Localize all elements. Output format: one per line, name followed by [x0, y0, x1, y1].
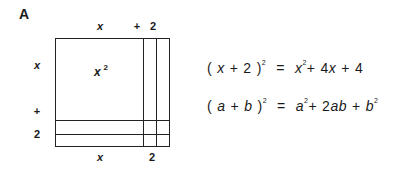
top-label-2: 2: [150, 21, 156, 32]
vertical-divider-2: [156, 38, 157, 147]
eq2-lhs-exp: 2: [263, 97, 267, 104]
eq2-plus2: +: [352, 98, 361, 114]
eq1-term2-coef: 4: [321, 60, 329, 76]
eq1-lhs-plus: +: [230, 60, 239, 76]
eq2-term3-exp: 2: [374, 97, 378, 104]
equation-1: (x+2)2=x2+4x+4: [207, 59, 363, 75]
horizontal-divider-1: [55, 120, 170, 121]
eq1-lhs-b: 2: [243, 60, 251, 76]
area-exp: 2: [104, 63, 108, 72]
eq2-lhs-b: b: [244, 98, 252, 114]
eq2-term1: a: [296, 98, 304, 114]
eq2-term2-var: ab: [330, 98, 347, 114]
eq2-lhs-plus: +: [230, 98, 239, 114]
eq1-equals: =: [276, 60, 285, 76]
left-label-plus: +: [34, 106, 40, 117]
eq2-open-paren: (: [207, 98, 212, 114]
eq2-plus1: +: [308, 98, 317, 114]
eq1-term2-var: x: [329, 60, 337, 76]
left-label-x: x: [34, 60, 40, 71]
panel-label: A: [19, 6, 29, 22]
eq2-term3: b: [366, 98, 374, 114]
horizontal-divider-2: [55, 134, 170, 135]
equation-2: (a+b)2=a2+2ab+b2: [207, 97, 378, 113]
eq1-plus2: +: [341, 60, 350, 76]
eq1-term3: 4: [355, 60, 363, 76]
bottom-label-x: x: [97, 152, 103, 163]
top-label-plus: +: [134, 21, 140, 32]
area-label-x-squared: x2: [94, 63, 108, 79]
eq1-plus1: +: [307, 60, 316, 76]
eq1-lhs-a: x: [217, 60, 225, 76]
vertical-divider-1: [143, 38, 144, 147]
eq1-lhs-exp: 2: [262, 59, 266, 66]
left-label-2: 2: [34, 129, 40, 140]
square-diagram: [55, 38, 170, 147]
eq2-lhs-a: a: [217, 98, 225, 114]
area-base: x: [94, 65, 101, 79]
eq2-equals: =: [277, 98, 286, 114]
bottom-label-2: 2: [149, 152, 155, 163]
eq1-open-paren: (: [207, 60, 212, 76]
top-label-x: x: [97, 21, 103, 32]
